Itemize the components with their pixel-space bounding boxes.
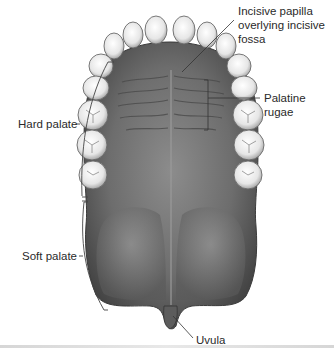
label-line-1: Palatine bbox=[264, 91, 306, 105]
label-palatine-rugae: Palatine rugae bbox=[264, 91, 306, 119]
label-incisive-papilla: Incisive papilla overlying incisive foss… bbox=[238, 4, 325, 46]
label-soft-palate: Soft palate bbox=[22, 249, 77, 263]
label-line-1: Incisive papilla bbox=[238, 4, 325, 18]
label-line-3: fossa bbox=[238, 32, 325, 46]
label-line-2: overlying incisive bbox=[238, 18, 325, 32]
bottom-divider bbox=[0, 345, 334, 348]
label-hard-palate: Hard palate bbox=[18, 117, 77, 131]
label-line-2: rugae bbox=[264, 105, 306, 119]
